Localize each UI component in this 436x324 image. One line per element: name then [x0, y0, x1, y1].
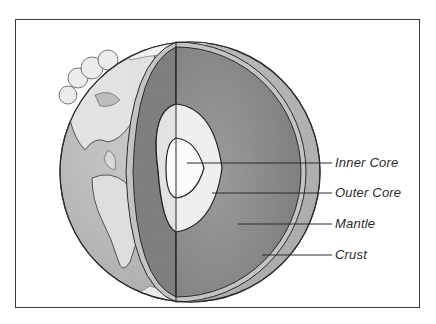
- label-crust: Crust: [335, 247, 367, 262]
- label-inner-core: Inner Core: [335, 155, 398, 170]
- label-outer-core: Outer Core: [335, 185, 401, 200]
- label-mantle: Mantle: [335, 216, 375, 231]
